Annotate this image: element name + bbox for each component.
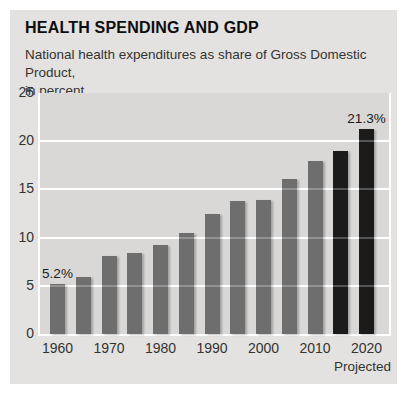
x-axis: 1960197019801990200020102020	[10, 340, 397, 357]
x-tick-2000: 2000	[242, 340, 286, 356]
bar-2015	[333, 151, 348, 334]
bar-2000	[256, 200, 271, 334]
y-tick-10: 10	[10, 229, 34, 246]
gridline-overlay-5	[40, 285, 389, 287]
bar-1985	[179, 233, 194, 334]
bar-1990	[205, 214, 220, 334]
bar-1980	[153, 245, 168, 334]
bar-1995	[230, 201, 245, 334]
y-axis: 0510152025	[10, 93, 34, 334]
plot-area: 5.2%21.3%	[38, 93, 391, 336]
x-tick-1960: 1960	[36, 340, 80, 356]
y-tick-25: 25	[10, 84, 34, 101]
bar-2010	[308, 161, 323, 334]
x-tick-1990: 1990	[190, 340, 234, 356]
annotation-2020: 21.3%	[347, 111, 385, 126]
projected-note: Projected	[334, 359, 391, 374]
y-tick-5: 5	[10, 277, 34, 294]
chart-title: HEALTH SPENDING AND GDP	[25, 19, 259, 37]
x-tick-2010: 2010	[293, 340, 337, 356]
bar-1970	[102, 256, 117, 334]
chart-subtitle-line1: National health expenditures as share of…	[25, 46, 397, 82]
bar-2005	[282, 179, 297, 334]
annotation-1960: 5.2%	[42, 266, 73, 281]
y-tick-20: 20	[10, 132, 34, 149]
bar-1975	[127, 253, 142, 334]
chart-subtitle: National health expenditures as share of…	[25, 46, 397, 100]
x-tick-1970: 1970	[87, 340, 131, 356]
gridline-overlay-10	[40, 237, 389, 239]
y-tick-15: 15	[10, 180, 34, 197]
gridline-overlay-20	[40, 140, 389, 142]
x-tick-1980: 1980	[139, 340, 183, 356]
chart-card: HEALTH SPENDING AND GDP National health …	[10, 10, 397, 384]
gridline-overlay-15	[40, 188, 389, 190]
bar-2020	[359, 129, 374, 334]
x-tick-2020: 2020	[345, 340, 389, 356]
bar-1960	[50, 284, 65, 334]
